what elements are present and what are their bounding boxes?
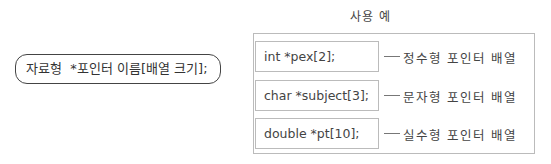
description-double: 실수형 포인터 배열 (403, 125, 517, 144)
code-example-int: int *pex[2]; (255, 41, 379, 72)
connector-line (384, 133, 400, 134)
description-char: 문자형 포인터 배열 (403, 87, 517, 106)
syntax-box: 자료형 *포인터 이름[배열 크기]; (15, 54, 221, 84)
code-example-double: double *pt[10]; (255, 118, 379, 149)
examples-title: 사용 예 (350, 7, 391, 24)
description-int: 정수형 포인터 배열 (403, 48, 517, 67)
code-example-char: char *subject[3]; (255, 80, 379, 111)
connector-line (384, 56, 400, 57)
connector-line (384, 95, 400, 96)
